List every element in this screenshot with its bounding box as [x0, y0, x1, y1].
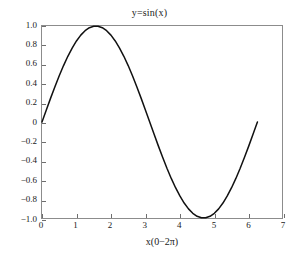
x-tick-mark: [111, 214, 112, 218]
y-tick-label: −0.6: [21, 176, 37, 185]
chart-title: y=sin(x): [0, 7, 299, 18]
sine-curve: [42, 26, 282, 218]
y-tick-mark: [42, 181, 46, 182]
x-tick-label: 7: [281, 221, 286, 230]
y-tick-mark: [42, 45, 46, 46]
y-tick-mark: [42, 142, 46, 143]
x-tick-mark: [77, 214, 78, 218]
y-tick-label: −0.2: [21, 137, 37, 146]
y-tick-mark: [42, 26, 46, 27]
y-tick-mark: [42, 123, 46, 124]
x-tick-mark: [42, 214, 43, 218]
y-tick-label: 0: [33, 118, 38, 127]
sine-chart-figure: y=sin(x) 1.00.80.60.40.20−0.2−0.4−0.6−0.…: [0, 0, 299, 258]
x-tick-mark: [146, 214, 147, 218]
x-tick-label: 0: [39, 221, 44, 230]
x-tick-label: 3: [142, 221, 147, 230]
y-tick-mark: [42, 65, 46, 66]
y-tick-mark: [42, 162, 46, 163]
y-tick-label: 1.0: [26, 21, 37, 30]
x-tick-label: 4: [177, 221, 182, 230]
y-tick-label: 0.4: [26, 79, 37, 88]
x-tick-mark: [180, 214, 181, 218]
y-tick-label: −1.0: [21, 215, 37, 224]
plot-area: [41, 25, 283, 219]
x-tick-mark: [284, 214, 285, 218]
x-tick-label: 1: [73, 221, 78, 230]
y-tick-mark: [42, 104, 46, 105]
x-tick-label: 2: [108, 221, 113, 230]
y-tick-label: 0.2: [26, 98, 37, 107]
x-axis-tick-labels: 01234567: [41, 221, 283, 233]
x-tick-label: 6: [246, 221, 251, 230]
x-tick-mark: [249, 214, 250, 218]
x-axis-title: x(0−2π): [41, 236, 283, 247]
y-tick-mark: [42, 84, 46, 85]
x-tick-label: 5: [212, 221, 217, 230]
y-tick-label: 0.6: [26, 59, 37, 68]
y-tick-label: −0.4: [21, 156, 37, 165]
x-tick-mark: [215, 214, 216, 218]
y-axis-tick-labels: 1.00.80.60.40.20−0.2−0.4−0.6−0.8−1.0: [0, 25, 37, 219]
y-tick-label: −0.8: [21, 195, 37, 204]
y-tick-label: 0.8: [26, 40, 37, 49]
y-tick-mark: [42, 201, 46, 202]
sine-curve-path: [42, 26, 257, 218]
